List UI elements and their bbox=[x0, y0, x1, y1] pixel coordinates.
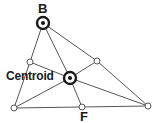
edge-centroid-bottom-right bbox=[70, 78, 148, 106]
left-midpoint bbox=[27, 59, 33, 65]
node-layer bbox=[11, 17, 151, 111]
vertex-b bbox=[37, 17, 49, 29]
centroid-point bbox=[64, 72, 76, 84]
bottom-right-vertex bbox=[145, 103, 151, 109]
geometry-canvas bbox=[0, 0, 161, 123]
edge-bottom-left-f bbox=[14, 107, 82, 108]
geometry-diagram: B F Centroid bbox=[0, 0, 161, 123]
centroid-point-center-dot bbox=[68, 76, 72, 80]
edge-layer bbox=[14, 23, 148, 108]
right-midpoint bbox=[94, 58, 100, 64]
edge-b-right-midpoint bbox=[43, 23, 97, 61]
bottom-right-vertex-node bbox=[145, 103, 151, 109]
vertex-f-label: F bbox=[80, 110, 88, 123]
bottom-left-vertex bbox=[11, 105, 17, 111]
right-midpoint-node bbox=[94, 58, 100, 64]
vertex-b-center-dot bbox=[41, 21, 45, 25]
edge-f-bottom-right bbox=[82, 106, 148, 107]
bottom-left-vertex-node bbox=[11, 105, 17, 111]
centroid-label: Centroid bbox=[6, 70, 54, 82]
vertex-b-label: B bbox=[38, 2, 47, 15]
edge-right-midpoint-bottom-right bbox=[97, 61, 148, 106]
left-midpoint-node bbox=[27, 59, 33, 65]
